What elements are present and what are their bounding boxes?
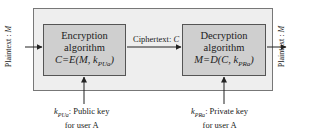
- ciphertext-label: Ciphertext: C: [133, 34, 179, 44]
- private-key-label: kPRa: Private key for user A: [191, 106, 248, 130]
- input-plaintext-label: Plaintext : M: [4, 26, 13, 67]
- public-key-label: kPUa: Public key for user A: [54, 106, 109, 130]
- flow-arrows: [0, 0, 310, 130]
- output-plaintext-label: Plaintext : M: [277, 26, 286, 67]
